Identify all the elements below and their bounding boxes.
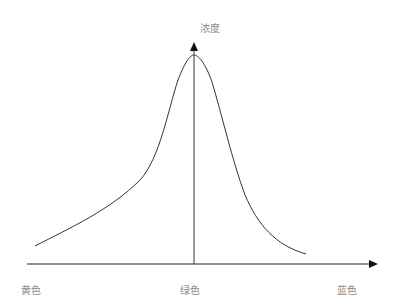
y-axis-label: 浓度 (200, 20, 220, 35)
x-axis-label-blue: 蓝色 (337, 282, 357, 297)
x-axis-label-green: 绿色 (180, 282, 200, 297)
x-axis-label-yellow: 黄色 (21, 282, 41, 297)
concentration-curve (35, 55, 306, 254)
y-axis-arrow-icon (190, 42, 198, 51)
concentration-diagram (0, 0, 394, 308)
x-axis-arrow-icon (369, 260, 378, 268)
